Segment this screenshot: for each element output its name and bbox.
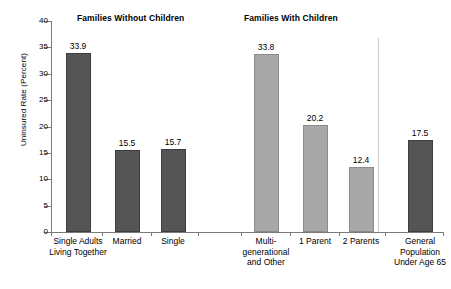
y-tick-label: 20 [24,123,48,131]
plot-area: 33.915.515.733.820.212.417.5 [51,21,443,232]
bar-value-label: 17.5 [400,129,440,138]
bar-value-label: 33.8 [246,43,286,52]
bar [161,149,186,232]
bar-value-label: 15.5 [107,139,147,148]
y-tick-label: 25 [24,96,48,104]
x-category-label: General Population Under Age 65 [375,236,451,268]
bar-chart: Uninsured Rate (Percent) 051015202530354… [0,0,451,289]
bar [408,140,433,232]
bar [254,54,279,232]
y-tick-label: 15 [24,149,48,157]
x-category-label: Single [128,236,218,247]
bar-value-label: 33.9 [58,42,98,51]
bar [303,125,328,232]
y-tick-label: 30 [24,70,48,78]
y-tick-label: 40 [24,17,48,25]
bar [66,53,91,232]
bar-value-label: 12.4 [341,156,381,165]
y-tick-label: 5 [24,202,48,210]
y-tick-label: 10 [24,175,48,183]
bar [349,167,374,232]
bar-value-label: 15.7 [153,138,193,147]
y-tick-label: 0 [24,228,48,236]
bar-value-label: 20.2 [295,114,335,123]
group-divider-line [378,38,379,232]
bar [115,150,140,232]
y-tick-label: 35 [24,43,48,51]
